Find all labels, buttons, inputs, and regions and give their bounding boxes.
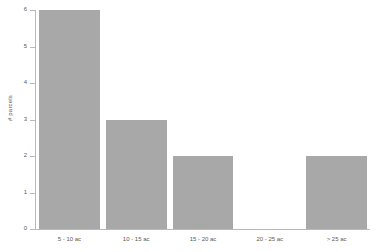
y-axis-tick: 2 — [30, 156, 35, 157]
y-axis-tick: 0 — [30, 229, 35, 230]
x-axis-tick-label: > 25 ac — [303, 236, 370, 242]
bar-slot — [306, 10, 367, 229]
bar-slot — [239, 10, 300, 229]
y-axis-tick-label: 1 — [24, 189, 27, 195]
y-axis-tick: 5 — [30, 47, 35, 48]
y-axis-tick: 1 — [30, 193, 35, 194]
x-axis-tick-label: 10 - 15 ac — [103, 236, 170, 242]
bar-chart: # parcels 0123456 5 - 10 ac10 - 15 ac15 … — [0, 0, 376, 252]
y-axis-tick: 4 — [30, 83, 35, 84]
y-axis-tick-label: 6 — [24, 6, 27, 12]
y-axis-tick-label: 5 — [24, 43, 27, 49]
y-axis-tick-label: 0 — [24, 225, 27, 231]
y-axis-tick: 6 — [30, 10, 35, 11]
x-axis-tick-label: 20 - 25 ac — [236, 236, 303, 242]
bar[interactable] — [106, 120, 167, 230]
y-axis-tick-label: 2 — [24, 152, 27, 158]
bar-slot — [106, 10, 167, 229]
bar[interactable] — [306, 156, 367, 229]
y-axis-title: # parcels — [7, 73, 13, 143]
bar-slot — [39, 10, 100, 229]
bar[interactable] — [173, 156, 234, 229]
x-axis-tick-label: 5 - 10 ac — [36, 236, 103, 242]
bar[interactable] — [39, 10, 100, 229]
y-axis-tick-label: 3 — [24, 116, 27, 122]
bar-slot — [173, 10, 234, 229]
x-axis-tick-label: 15 - 20 ac — [170, 236, 237, 242]
plot-area — [36, 10, 370, 229]
y-axis-tick: 3 — [30, 120, 35, 121]
x-axis-line — [35, 229, 370, 230]
y-axis-tick-label: 4 — [24, 79, 27, 85]
